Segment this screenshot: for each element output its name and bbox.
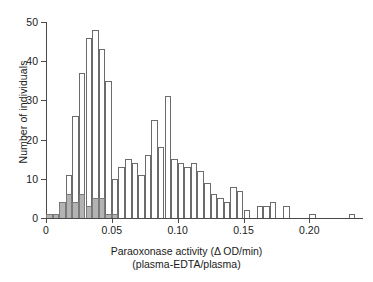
histogram-bar [86,206,93,218]
y-tick-label-20: 20 [26,134,38,145]
x-tick-0.10 [178,219,179,223]
histogram-bar [158,147,165,218]
x-tick-0.05 [112,219,113,223]
histogram-bar [230,187,237,218]
y-tick-label-40: 40 [26,56,38,67]
y-tick-label-0: 0 [32,213,38,224]
y-axis-ticks: 01020304050 [0,22,46,218]
histogram-bar [171,159,178,218]
histogram-bar [105,214,112,218]
x-tick-label-0.05: 0.05 [102,225,122,236]
histogram-bar [99,198,106,218]
histogram-bar [112,179,119,218]
histogram-bar [237,191,244,218]
x-axis-title-line1: Paraoxonase activity (Δ OD/min) [111,245,263,257]
x-tick-0.20 [309,219,310,223]
histogram-bar [99,49,106,218]
histogram-bar [197,171,204,218]
histogram-bar [145,155,152,218]
histogram-bar [349,214,356,218]
histogram-bar [132,163,139,218]
x-axis-title: Paraoxonase activity (Δ OD/min) (plasma-… [0,245,373,271]
histogram-bar [270,202,277,218]
y-tick-label-50: 50 [26,17,38,28]
histogram-figure: Number of individuals 01020304050 00.050… [0,0,373,282]
histogram-bar [151,120,158,218]
histogram-bar [59,202,66,218]
x-tick-label-0.15: 0.15 [233,225,253,236]
x-tick-0.15 [244,219,245,223]
histogram-bar [66,194,73,218]
histogram-bar [309,214,316,218]
plot-area [46,22,362,218]
histogram-bar [138,175,145,218]
histogram-bar [46,214,53,218]
histogram-bar [224,202,231,218]
histogram-bar [112,214,119,218]
histogram-bar [283,206,290,218]
histogram-bar [79,194,86,218]
histogram-bar [244,210,251,218]
histogram-bar [118,167,125,218]
histogram-bar [211,194,218,218]
histogram-bar [263,206,270,218]
histogram-bar [165,96,172,218]
histogram-bar [125,159,132,218]
histogram-bar [191,163,198,218]
x-axis-title-line2: (plasma-EDTA/plasma) [0,258,373,271]
x-tick-label-0.20: 0.20 [299,225,319,236]
histogram-bar [53,214,60,218]
histogram-bar [217,198,224,218]
histogram-bar [86,38,93,218]
x-axis-ticks: 00.050.100.150.20 [46,219,363,243]
x-tick-0 [46,219,47,223]
histogram-bar [92,30,99,218]
histogram-bar [257,206,264,218]
x-tick-label-0.10: 0.10 [167,225,187,236]
histogram-bar [178,163,185,218]
histogram-bar [92,198,99,218]
y-tick-label-10: 10 [26,174,38,185]
histogram-bar [184,167,191,218]
histogram-bar [72,202,79,218]
histogram-bar [204,183,211,218]
y-tick-label-30: 30 [26,95,38,106]
histogram-bar [105,81,112,218]
x-tick-label-0: 0 [43,225,49,236]
